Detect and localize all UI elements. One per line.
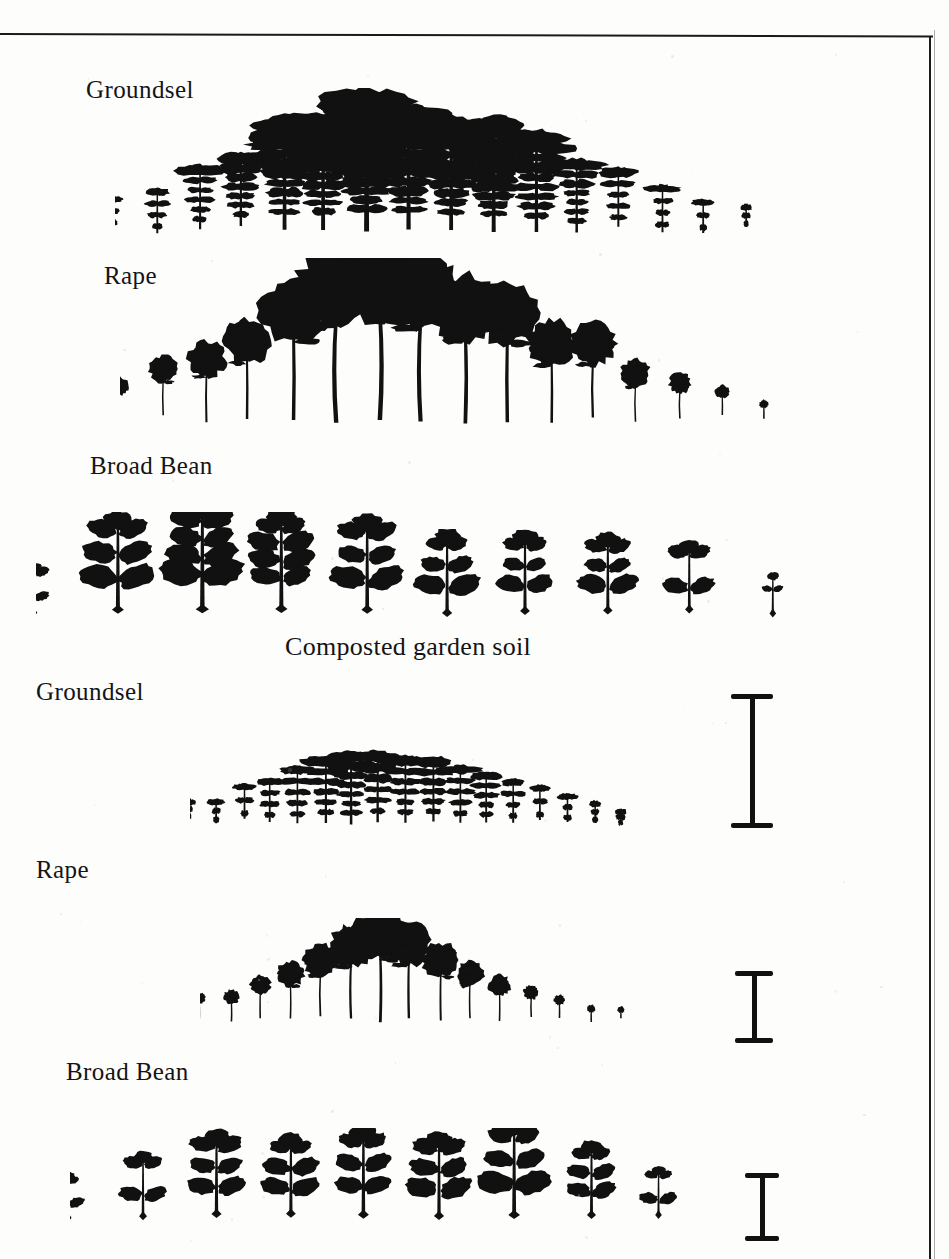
plant-row-broadbean-upper bbox=[36, 512, 834, 625]
paper-speckle bbox=[707, 600, 710, 603]
paper-speckle bbox=[525, 652, 526, 653]
page-border-top-rule bbox=[0, 33, 933, 37]
paper-speckle bbox=[221, 879, 223, 881]
paper-speckle bbox=[585, 120, 587, 122]
paper-speckle bbox=[347, 965, 348, 966]
paper-speckle bbox=[843, 881, 845, 883]
plant-silhouette-group bbox=[190, 748, 644, 832]
paper-speckle bbox=[601, 1064, 603, 1066]
scale-bar-broad-bean bbox=[745, 1173, 779, 1241]
paper-speckle bbox=[857, 331, 858, 332]
paper-speckle bbox=[452, 485, 454, 487]
page-border-right-outer-rule bbox=[934, 30, 935, 1259]
paper-speckle bbox=[599, 253, 601, 255]
plant-silhouette-group bbox=[115, 88, 779, 242]
paper-speckle bbox=[834, 990, 837, 993]
paper-speckle bbox=[325, 875, 328, 878]
paper-speckle bbox=[835, 54, 837, 56]
paper-speckle bbox=[331, 1110, 334, 1113]
paper-speckle bbox=[725, 722, 727, 724]
paper-speckle bbox=[142, 982, 144, 984]
page-border-right-rule bbox=[929, 36, 931, 1259]
paper-speckle bbox=[684, 706, 685, 707]
paper-speckle bbox=[267, 958, 270, 961]
label-broadbean-lower: Broad Bean bbox=[66, 1058, 189, 1086]
paper-speckle bbox=[578, 1194, 580, 1196]
paper-speckle bbox=[671, 55, 674, 58]
paper-speckle bbox=[60, 913, 61, 914]
paper-speckle bbox=[880, 986, 883, 989]
paper-speckle bbox=[267, 1001, 269, 1003]
paper-speckle bbox=[863, 1114, 866, 1117]
paper-speckle bbox=[190, 1240, 192, 1242]
paper-speckle bbox=[869, 1082, 871, 1084]
paper-speckle bbox=[725, 539, 728, 542]
paper-speckle bbox=[549, 1036, 551, 1038]
paper-speckle bbox=[261, 1152, 264, 1155]
label-rape-lower: Rape bbox=[36, 856, 89, 884]
label-broadbean-upper: Broad Bean bbox=[90, 452, 213, 480]
paper-speckle bbox=[733, 1201, 734, 1202]
paper-speckle bbox=[123, 349, 125, 351]
figure-page: Groundsel Rape Broad Bean Composted gard… bbox=[0, 0, 949, 1259]
plant-silhouette-group bbox=[36, 512, 834, 625]
plant-row-groundsel-lower bbox=[190, 748, 644, 832]
scale-bar-cap-bottom bbox=[731, 823, 773, 828]
scale-bar-stem bbox=[752, 971, 757, 1043]
scale-bar-stem bbox=[750, 694, 755, 828]
paper-speckle bbox=[593, 656, 594, 657]
paper-speckle bbox=[850, 1097, 851, 1098]
plant-row-rape-upper bbox=[120, 258, 799, 429]
paper-speckle bbox=[375, 1017, 377, 1019]
paper-speckle bbox=[38, 345, 39, 346]
paper-speckle bbox=[559, 924, 562, 927]
paper-speckle bbox=[712, 723, 714, 725]
plant-silhouette-group bbox=[70, 1128, 714, 1227]
paper-speckle bbox=[367, 75, 369, 77]
scale-bar-groundsel bbox=[731, 694, 773, 828]
plant-row-broadbean-lower bbox=[70, 1128, 714, 1227]
caption-composted-garden-soil: Composted garden soil bbox=[285, 632, 531, 662]
scale-bar-cap-bottom bbox=[735, 1038, 773, 1043]
plant-silhouette-group bbox=[120, 258, 799, 429]
paper-speckle bbox=[585, 1236, 588, 1239]
paper-speckle bbox=[80, 921, 81, 922]
paper-speckle bbox=[552, 1051, 553, 1052]
paper-speckle bbox=[172, 480, 174, 482]
scale-bar-rape bbox=[735, 971, 773, 1043]
paper-speckle bbox=[288, 768, 291, 771]
paper-speckle bbox=[382, 608, 383, 609]
label-groundsel-lower: Groundsel bbox=[36, 678, 144, 706]
scale-bar-cap-bottom bbox=[745, 1236, 779, 1241]
paper-speckle bbox=[557, 1047, 559, 1049]
scale-bar-stem bbox=[760, 1173, 765, 1241]
plant-row-groundsel-upper bbox=[115, 88, 779, 242]
paper-speckle bbox=[719, 453, 721, 455]
paper-speckle bbox=[408, 461, 411, 464]
paper-speckle bbox=[95, 804, 97, 806]
paper-speckle bbox=[395, 1062, 396, 1063]
paper-speckle bbox=[544, 819, 547, 822]
